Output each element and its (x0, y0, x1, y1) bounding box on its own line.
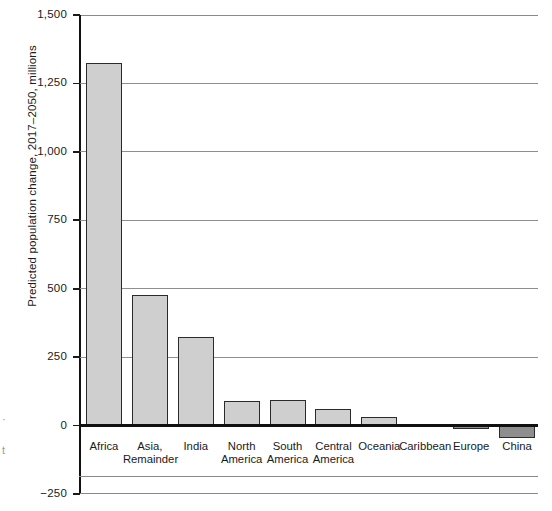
y-tick-mark--250 (73, 493, 80, 495)
bar-central-america (315, 409, 351, 426)
bar-south-america (270, 400, 306, 426)
y-tick-mark-250 (73, 356, 80, 358)
y-tick-label-1000: 1,000 (1, 145, 67, 157)
zero-baseline (79, 424, 538, 426)
y-tick-label-250: 250 (1, 350, 67, 362)
bar-chart: Predicted population change, 2017–2050, … (0, 0, 552, 511)
y-tick-mark-500 (73, 288, 80, 290)
y-tick-label-750: 750 (1, 213, 67, 225)
y-tick-label--250: −250 (1, 487, 67, 499)
y-tick-label-500: 500 (1, 282, 67, 294)
page-edge-artifact-2: t (2, 444, 5, 456)
x-label-china: China (490, 440, 544, 454)
bar-north-america (224, 401, 260, 425)
y-tick-mark-1500 (73, 14, 80, 16)
bar-asia--remainder (132, 295, 168, 426)
gridline-1250 (79, 83, 538, 84)
y-tick-mark-1000 (73, 151, 80, 153)
bar-africa (86, 63, 122, 426)
plot-area (79, 15, 538, 494)
bar-india (178, 337, 214, 426)
y-tick-label-1500: 1,500 (1, 8, 67, 20)
y-tick-mark-0 (73, 425, 80, 427)
gridline-750 (79, 220, 538, 221)
y-tick-mark-1250 (73, 83, 80, 85)
y-axis-line (79, 15, 81, 494)
axis-bottom-cap (79, 493, 538, 494)
y-tick-label-0: 0 (1, 419, 67, 431)
bar-china (499, 426, 535, 438)
category-band-line (79, 476, 538, 477)
gridline-500 (79, 288, 538, 289)
axis-top-cap (79, 15, 538, 16)
y-tick-label-1250: 1,250 (1, 76, 67, 88)
y-tick-mark-750 (73, 219, 80, 221)
gridline-1000 (79, 151, 538, 152)
